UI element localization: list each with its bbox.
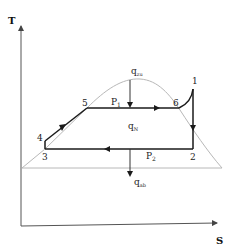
q-in-label: qzu [131,66,143,77]
arrow-5-6-icon [154,105,160,111]
point-1-label: 1 [192,76,198,86]
q-out-arrowhead-icon [127,171,133,177]
q-net-label: qN [128,121,139,132]
point-3-label: 3 [42,152,48,162]
x-axis [21,223,217,226]
ts-diagram: T S 1 2 3 4 5 6 P1 P2 qzu qN qab [0,0,235,249]
arrow-2-3-icon [104,146,110,152]
q-out-label: qab [134,177,146,188]
p2-label: P2 [146,151,156,162]
point-5-label: 5 [82,98,88,108]
y-axis-label: T [8,15,16,26]
point-6-label: 6 [173,98,179,108]
x-axis-label: S [216,235,223,246]
point-2-label: 2 [190,152,196,162]
arrow-1-2-icon [190,125,196,131]
q-in-arrowhead-icon [127,102,133,108]
segment-6-1 [179,89,193,108]
p1-label: P1 [111,97,121,108]
segment-4-5 [45,108,87,141]
point-4-label: 4 [37,133,43,143]
